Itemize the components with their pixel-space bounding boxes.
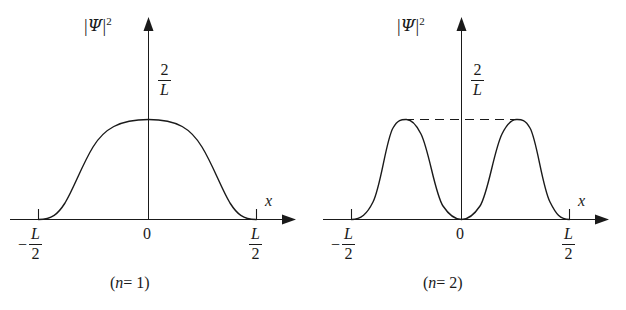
y-value-numerator: 2	[471, 62, 484, 79]
density-curve-n2	[352, 119, 570, 219]
x-tick-label-minus-half-L-n1: − L 2	[18, 226, 42, 263]
tick-numerator: L	[562, 226, 575, 243]
density-curve-n1	[39, 120, 257, 220]
y-axis-exponent: 2	[106, 15, 112, 27]
x-tick-label-minus-half-L-n2: − L 2	[331, 226, 355, 263]
tick-numerator: L	[342, 226, 355, 243]
x-tick-label-plus-half-L-n1: L 2	[249, 226, 262, 263]
y-value-denominator: L	[471, 80, 484, 99]
tick-denominator: 2	[249, 244, 262, 263]
caption-value: = 2	[436, 274, 457, 291]
y-axis-arrowhead	[144, 17, 154, 31]
x-tick-label-plus-half-L-n2: L 2	[562, 226, 575, 263]
plot-canvas-n2	[313, 0, 626, 310]
x-tick-label-origin-n2: 0	[456, 226, 464, 242]
y-value-denominator: L	[158, 80, 171, 99]
tick-numerator: L	[249, 226, 262, 243]
y-value-numerator: 2	[158, 62, 171, 79]
y-value-label-2-over-L-n1: 2 L	[158, 62, 171, 99]
psi-symbol: Ψ	[401, 15, 416, 35]
plot-canvas-n1	[0, 0, 313, 310]
y-axis-label-n1: |Ψ|2	[84, 16, 112, 35]
figure-root: |Ψ|2 x 2 L − L 2 0 L	[0, 0, 626, 310]
y-axis-label-n2: |Ψ|2	[397, 16, 425, 35]
caption-paren-close: )	[457, 274, 462, 291]
caption-paren-close: )	[144, 274, 149, 291]
x-axis-arrowhead	[282, 215, 296, 225]
minus-sign: −	[18, 237, 27, 253]
tick-denominator: 2	[342, 244, 355, 263]
x-axis-label-n1: x	[265, 193, 272, 209]
y-axis-exponent: 2	[419, 15, 425, 27]
plot-panel-n2: |Ψ|2 x 2 L − L 2 0 L	[313, 0, 626, 310]
panel-caption-n1: (n= 1)	[110, 275, 150, 291]
y-axis-arrowhead	[457, 17, 467, 31]
minus-sign: −	[331, 237, 340, 253]
caption-value: = 1	[123, 274, 144, 291]
plot-panel-n1: |Ψ|2 x 2 L − L 2 0 L	[0, 0, 313, 310]
tick-denominator: 2	[29, 244, 42, 263]
x-axis-label-n2: x	[578, 193, 585, 209]
tick-numerator: L	[29, 226, 42, 243]
y-value-label-2-over-L-n2: 2 L	[471, 62, 484, 99]
panel-caption-n2: (n= 2)	[423, 275, 463, 291]
psi-symbol: Ψ	[88, 15, 103, 35]
tick-denominator: 2	[562, 244, 575, 263]
x-tick-label-origin-n1: 0	[143, 226, 151, 242]
x-axis-arrowhead	[595, 215, 609, 225]
